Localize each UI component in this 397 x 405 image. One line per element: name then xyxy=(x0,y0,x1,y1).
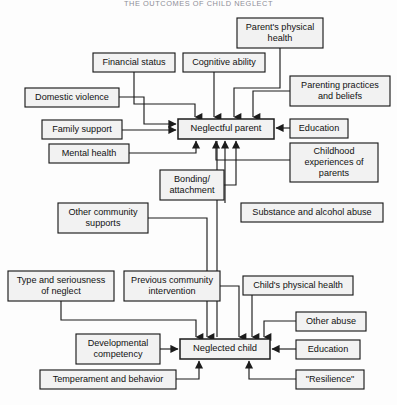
node-label: Temperament and behavior xyxy=(53,374,164,384)
flow-node-bonding_attachment: Bonding/attachment xyxy=(160,170,224,200)
node-label: Previous community xyxy=(131,275,213,285)
flow-node-parents_physical_health: Parent's physicalhealth xyxy=(237,18,323,48)
node-label: Education xyxy=(308,344,348,354)
node-label: Cognitive ability xyxy=(192,57,256,67)
node-label: competency xyxy=(93,349,142,359)
flow-node-cognitive_ability: Cognitive ability xyxy=(183,53,265,72)
flow-node-mental_health: Mental health xyxy=(49,144,129,163)
flow-edge xyxy=(134,72,195,117)
nodes-layer: Parent's physicalhealthFinancial statusC… xyxy=(8,18,390,389)
flow-node-childhood_experiences: Childhoodexperiences ofparents xyxy=(290,143,378,182)
flow-node-other_abuse: Other abuse xyxy=(296,312,366,331)
flow-edge xyxy=(129,141,196,153)
flow-node-developmental_competency: Developmentalcompetency xyxy=(76,334,160,364)
node-label: of neglect xyxy=(41,286,81,296)
flow-node-type_seriousness_neglect: Type and seriousnessof neglect xyxy=(8,271,114,301)
flow-node-childs_physical_health: Child's physical health xyxy=(243,276,353,295)
node-label: Financial status xyxy=(102,57,166,67)
flow-node-education_child: Education xyxy=(296,340,360,359)
flow-node-family_support: Family support xyxy=(42,120,122,139)
node-label: parents xyxy=(319,168,350,178)
flow-node-education_parent: Education xyxy=(290,119,348,138)
node-label: Neglectful parent xyxy=(191,122,262,133)
node-label: experiences of xyxy=(304,157,364,167)
node-label: Child's physical health xyxy=(253,280,343,290)
node-label: and beliefs xyxy=(318,91,362,101)
node-label: Childhood xyxy=(314,146,355,156)
flow-edge xyxy=(220,286,239,337)
flow-node-substance_alcohol_abuse: Substance and alcohol abuse xyxy=(241,203,383,222)
node-label: Domestic violence xyxy=(35,92,109,102)
flow-node-neglected_child: Neglected child xyxy=(180,339,270,359)
node-label: Substance and alcohol abuse xyxy=(252,207,371,217)
flow-node-previous_community_intervention: Previous communityintervention xyxy=(124,271,220,301)
node-label: "Resilience" xyxy=(306,374,354,384)
node-label: attachment xyxy=(170,185,215,195)
flow-node-neglectful_parent: Neglectful parent xyxy=(178,119,274,139)
flow-node-financial_status: Financial status xyxy=(93,53,175,72)
node-label: Education xyxy=(299,123,339,133)
flow-edge xyxy=(224,141,236,185)
node-label: Type and seriousness xyxy=(17,275,106,285)
flowchart-canvas: Parent's physicalhealthFinancial statusC… xyxy=(0,0,397,405)
node-label: Bonding/ xyxy=(174,174,210,184)
flow-edge xyxy=(253,91,290,117)
flow-edge xyxy=(61,301,196,337)
node-label: Parent's physical xyxy=(246,22,314,32)
flow-edge xyxy=(119,97,176,124)
flow-edge xyxy=(176,361,199,379)
node-label: Other community xyxy=(68,207,138,217)
flow-edge xyxy=(216,141,290,160)
node-label: Neglected child xyxy=(193,342,257,353)
node-label: Mental health xyxy=(62,148,117,158)
node-label: health xyxy=(268,33,293,43)
node-label: Other abuse xyxy=(306,316,356,326)
flowchart-diagram: THE OUTCOMES OF CHILD NEGLECT Parent's p… xyxy=(0,0,397,405)
flow-node-other_community_supports: Other communitysupports xyxy=(58,203,148,233)
node-label: intervention xyxy=(148,286,195,296)
flow-edge xyxy=(249,361,296,379)
node-label: supports xyxy=(86,218,121,228)
node-label: Developmental xyxy=(88,338,149,348)
flow-node-domestic_violence: Domestic violence xyxy=(25,88,119,107)
flow-node-temperament_behavior: Temperament and behavior xyxy=(40,370,176,389)
flow-node-resilience: "Resilience" xyxy=(296,370,364,389)
node-label: Parenting practices xyxy=(301,80,379,90)
flow-edge xyxy=(264,321,296,337)
node-label: Family support xyxy=(52,124,112,134)
flow-node-parenting_practices: Parenting practicesand beliefs xyxy=(290,76,390,106)
